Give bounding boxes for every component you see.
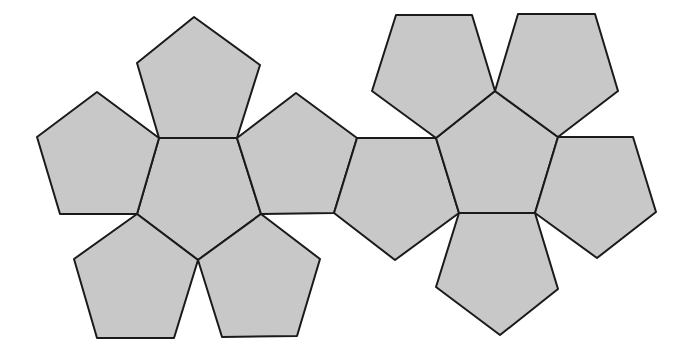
dodecahedron-net-diagram: Dodecahedron net <box>0 0 692 354</box>
net-svg <box>0 0 692 354</box>
